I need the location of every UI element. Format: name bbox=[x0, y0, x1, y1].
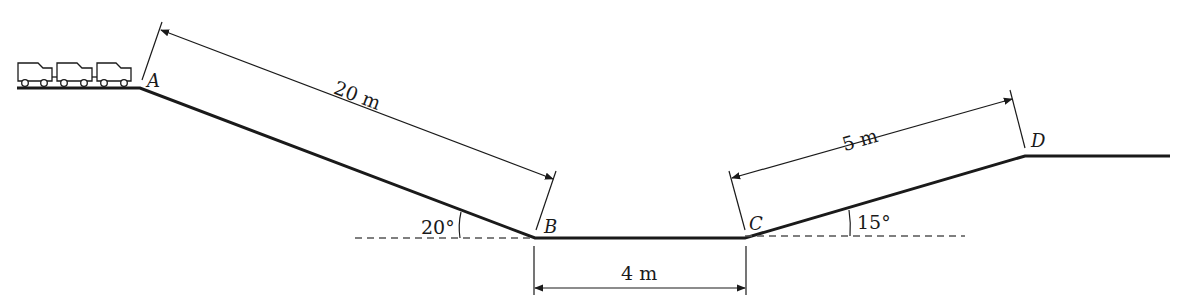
roller-coaster-diagram: 20 m 4 m 5 m 20° 15° A B C D bbox=[0, 0, 1179, 305]
label-angle-20: 20° bbox=[421, 216, 455, 238]
angle-arc-20 bbox=[459, 212, 461, 238]
dimension-cd bbox=[729, 90, 1025, 230]
label-ab-length: 20 m bbox=[331, 76, 384, 114]
track bbox=[17, 88, 1170, 238]
point-label-a: A bbox=[145, 70, 160, 91]
train-car-2 bbox=[57, 63, 92, 86]
point-label-b: B bbox=[543, 216, 557, 237]
diagram-canvas: 20 m 4 m 5 m 20° 15° A B C D bbox=[0, 0, 1179, 305]
label-angle-15: 15° bbox=[857, 211, 891, 233]
point-label-d: D bbox=[1030, 130, 1046, 151]
train-car-1 bbox=[18, 63, 52, 86]
point-label-c: C bbox=[749, 213, 763, 234]
train-car-3 bbox=[97, 63, 131, 86]
train bbox=[18, 63, 131, 86]
label-cd-length: 5 m bbox=[839, 124, 880, 155]
dimension-ab bbox=[142, 22, 556, 230]
angle-arc-15 bbox=[849, 210, 850, 236]
label-bc-length: 4 m bbox=[621, 262, 657, 284]
